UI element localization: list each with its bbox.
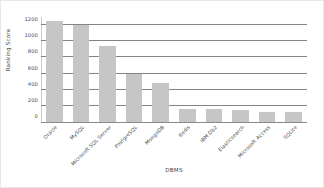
y-tick-label: 200	[4, 97, 38, 103]
bar-series	[41, 17, 307, 122]
x-tick-label: Oracle	[12, 124, 59, 171]
bar-chart-figure: 020040060080010001200 Ranking Score Orac…	[0, 0, 324, 188]
bar	[99, 46, 115, 122]
x-axis-title: DBMS	[41, 167, 307, 173]
bar	[232, 110, 248, 122]
bar	[259, 112, 275, 123]
bar	[73, 25, 89, 122]
bar	[152, 83, 168, 122]
x-tick-label: PostgreSQL	[92, 124, 139, 171]
bar	[179, 109, 195, 122]
x-tick-label: Microsoft Access	[225, 124, 272, 171]
bar	[206, 109, 222, 122]
bar	[126, 74, 142, 122]
x-axis-spine	[41, 122, 307, 123]
y-tick-label: 0	[4, 113, 38, 119]
y-tick-label: 400	[4, 81, 38, 87]
bar	[285, 112, 301, 122]
bar	[46, 21, 62, 122]
x-axis-tick-labels: OracleMySQLMicrosoft SQL ServerPostgreSQ…	[41, 124, 307, 164]
plot-area	[41, 17, 307, 122]
y-axis-title: Ranking Score	[5, 22, 11, 78]
x-tick-label: Redis	[145, 124, 192, 171]
